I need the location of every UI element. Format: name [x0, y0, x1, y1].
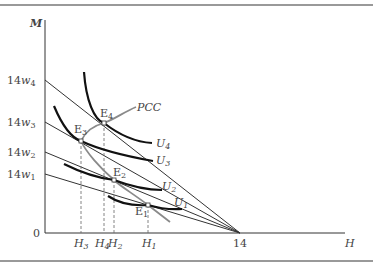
- x-tick-h3: H3: [73, 237, 89, 251]
- svg-text:14w4: 14w4: [7, 74, 36, 88]
- e4-marker: [102, 121, 106, 125]
- origin-label: 0: [33, 227, 40, 240]
- x-intercept-label: 14: [233, 237, 247, 250]
- svg-text:14w3: 14w3: [7, 116, 36, 130]
- e3-marker: [79, 139, 83, 143]
- y-tick-14w2: 14w2: [7, 146, 36, 160]
- u3-label: U3: [156, 154, 170, 168]
- y-tick-14w1: 14w1: [7, 168, 36, 182]
- pcc-label: PCC: [136, 101, 162, 114]
- e2-label: E2: [113, 166, 126, 180]
- e1-marker: [146, 203, 150, 207]
- x-axis-label: H: [344, 237, 355, 250]
- e3-label: E3: [74, 123, 87, 137]
- u1-label: U1: [174, 196, 188, 210]
- svg-text:14w2: 14w2: [7, 146, 36, 160]
- u4-label: U4: [156, 137, 170, 151]
- x-tick-h2: H2: [107, 237, 123, 251]
- y-axis-label: M: [29, 17, 43, 30]
- y-tick-14w4: 14w4: [7, 74, 36, 88]
- budget-line-1: [45, 174, 240, 233]
- budget-line-2: [45, 152, 240, 233]
- svg-text:14w1: 14w1: [7, 168, 36, 182]
- u2-label: U2: [162, 180, 176, 194]
- x-tick-h1: H1: [141, 237, 157, 251]
- e4-label: E4: [100, 107, 113, 121]
- diagram-frame: M H 0 14 14w4 14w3 14w2 14w1: [0, 0, 373, 269]
- y-tick-14w3: 14w3: [7, 116, 36, 130]
